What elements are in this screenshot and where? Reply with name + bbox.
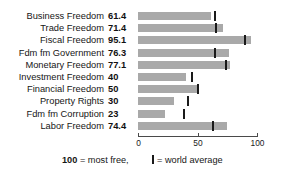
- world-average-marker: [197, 84, 199, 94]
- world-average-marker: [225, 60, 227, 70]
- axis-tick-0: [138, 133, 139, 136]
- row-value: 40: [108, 71, 132, 83]
- table-row: Fiscal Freedom 95.1: [0, 34, 281, 46]
- row-value: 50: [108, 83, 132, 95]
- row-label: Property Rights: [0, 95, 104, 107]
- row-label: Investment Freedom: [0, 71, 104, 83]
- legend-most-free-text: = most free,: [77, 155, 128, 165]
- world-average-marker-icon: [152, 155, 154, 164]
- bar: [138, 85, 198, 93]
- row-value: 30: [108, 95, 132, 107]
- axis-tick-100: [257, 133, 258, 136]
- table-row: Investment Freedom 40: [0, 71, 281, 83]
- row-label: Fiscal Freedom: [0, 34, 104, 46]
- table-row: Fdm fm Corruption 23: [0, 108, 281, 120]
- legend-world-average-text: = world average: [157, 155, 223, 165]
- bar: [138, 61, 230, 69]
- row-value: 23: [108, 108, 132, 120]
- world-average-marker: [212, 121, 214, 131]
- row-value: 77.1: [108, 59, 132, 71]
- freedom-index-bar-chart: Business Freedom 61.4 Trade Freedom 71.4…: [0, 0, 281, 175]
- row-value: 61.4: [108, 10, 132, 22]
- row-label: Fdm fm Government: [0, 47, 104, 59]
- axis-tick-label-100: 100: [243, 138, 273, 148]
- table-row: Financial Freedom 50: [0, 83, 281, 95]
- axis-tick-50: [198, 133, 199, 136]
- bar: [138, 97, 174, 105]
- world-average-marker: [183, 109, 185, 119]
- bar: [138, 24, 223, 32]
- table-row: Labor Freedom 74.4: [0, 120, 281, 132]
- axis-line: [138, 136, 258, 137]
- legend-most-free-value: 100: [62, 155, 77, 165]
- chart-legend: 100 = most free, = world average: [0, 154, 281, 168]
- world-average-marker: [214, 48, 216, 58]
- bar: [138, 73, 186, 81]
- bar: [138, 12, 211, 20]
- axis-tick-label-50: 50: [183, 138, 213, 148]
- table-row: Monetary Freedom 77.1: [0, 59, 281, 71]
- row-label: Labor Freedom: [0, 120, 104, 132]
- legend-most-free: 100 = most free,: [62, 154, 129, 167]
- bar: [138, 36, 251, 44]
- row-value: 74.4: [108, 120, 132, 132]
- row-label: Trade Freedom: [0, 22, 104, 34]
- row-value: 71.4: [108, 22, 132, 34]
- bar: [138, 110, 165, 118]
- row-value: 76.3: [108, 47, 132, 59]
- table-row: Property Rights 30: [0, 95, 281, 107]
- table-row: Fdm fm Government 76.3: [0, 47, 281, 59]
- world-average-marker: [187, 96, 189, 106]
- row-label: Financial Freedom: [0, 83, 104, 95]
- row-label: Fdm fm Corruption: [0, 108, 104, 120]
- world-average-marker: [214, 11, 216, 21]
- row-label: Business Freedom: [0, 10, 104, 22]
- table-row: Business Freedom 61.4: [0, 10, 281, 22]
- axis-tick-label-0: 0: [124, 138, 154, 148]
- table-row: Trade Freedom 71.4: [0, 22, 281, 34]
- legend-world-average: = world average: [152, 154, 223, 167]
- world-average-marker: [191, 72, 193, 82]
- world-average-marker: [215, 23, 217, 33]
- row-value: 95.1: [108, 34, 132, 46]
- world-average-marker: [244, 35, 246, 45]
- row-label: Monetary Freedom: [0, 59, 104, 71]
